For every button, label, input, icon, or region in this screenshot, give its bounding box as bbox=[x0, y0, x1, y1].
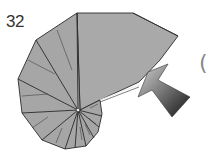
origami-diagram bbox=[0, 0, 209, 157]
center-point bbox=[76, 108, 79, 111]
